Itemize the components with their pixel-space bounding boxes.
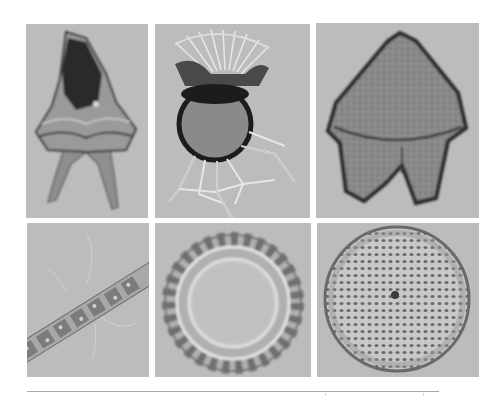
micrograph-panel-ring-diatom [155,223,311,377]
faint-tick-mark [325,393,326,396]
micrograph-panel-horned-dinoflagellate [26,24,148,218]
micrograph-panel-winged-dinoflagellate [155,24,310,218]
micrograph-panel-pentagonal-dinoflagellate [316,23,479,218]
horizontal-rule [27,391,439,392]
disc-diatom-image [317,223,479,377]
pentagonal-dinoflagellate-image [316,23,479,218]
micrograph-panel-disc-diatom [317,223,479,377]
chain-diatom-image [27,223,149,377]
winged-dinoflagellate-image [155,24,310,218]
horned-dinoflagellate-image [26,24,148,218]
ring-diatom-image [155,223,311,377]
micrograph-panel-chain-diatom [27,223,149,377]
faint-tick-mark [423,393,424,396]
